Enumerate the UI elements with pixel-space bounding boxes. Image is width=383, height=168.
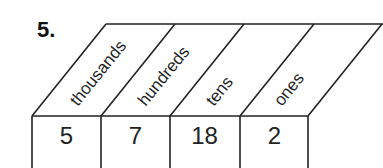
value-hundreds: 7 [101,124,170,148]
value-thousands: 5 [32,124,101,148]
value-ones: 2 [240,124,309,148]
value-tens: 18 [170,124,239,148]
